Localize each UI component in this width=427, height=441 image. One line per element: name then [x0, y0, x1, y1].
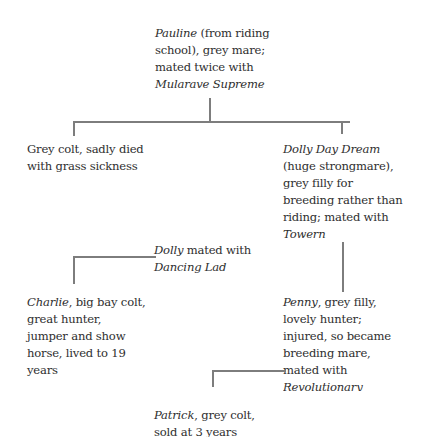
horse-name: Penny — [283, 295, 318, 309]
horse-name: Charlie — [27, 295, 69, 309]
connector-line — [73, 256, 156, 258]
node-text: mated with — [183, 243, 251, 257]
node-pauline: Pauline (from riding school), grey mare;… — [155, 25, 269, 93]
connector-line — [73, 121, 350, 123]
node-text: with grass sickness — [27, 158, 144, 175]
node-text: great hunter, — [27, 311, 145, 328]
node-text: mated with — [283, 362, 391, 379]
node-dolly-day-dream: Dolly Day Dream (huge strongmare), grey … — [283, 141, 403, 243]
node-text: sold at 3 years — [154, 424, 255, 437]
connector-line — [73, 256, 75, 284]
node-patrick: Patrick, grey colt, sold at 3 years — [154, 407, 255, 437]
node-text: mated twice with — [155, 59, 269, 76]
node-charlie: Charlie, big bay colt, great hunter, jum… — [27, 294, 145, 379]
connector-line — [212, 370, 214, 387]
connector-line — [342, 242, 344, 292]
connector-line — [209, 98, 211, 122]
node-text: (huge strongmare), — [283, 158, 403, 175]
horse-name: Dolly Day Dream — [283, 142, 380, 156]
node-grey-colt: Grey colt, sadly died with grass sicknes… — [27, 141, 144, 175]
node-text: jumper and show — [27, 328, 145, 345]
sire-name: Revolutionary — [283, 380, 363, 391]
horse-name: Dolly — [154, 243, 183, 257]
sire-name: Dancing Lad — [154, 260, 226, 274]
horse-name: Pauline — [155, 26, 197, 40]
connector-line — [212, 370, 286, 372]
connector-line — [73, 121, 75, 136]
node-text: years — [27, 362, 145, 379]
node-penny: Penny, grey filly, lovely hunter; injure… — [283, 294, 391, 391]
node-text: riding; mated with — [283, 209, 403, 226]
node-text: grey filly for — [283, 175, 403, 192]
sire-name: Towern — [283, 227, 325, 241]
node-dolly-mating: Dolly mated with Dancing Lad — [154, 242, 251, 276]
node-text: , grey filly, — [318, 295, 377, 309]
node-text: breeding mare, — [283, 345, 391, 362]
connector-line — [341, 122, 343, 134]
node-text: breeding rather than — [283, 192, 403, 209]
node-text: , grey colt, — [194, 408, 255, 422]
node-text: , big bay colt, — [69, 295, 146, 309]
node-text: Grey colt, sadly died — [27, 141, 144, 158]
node-text: lovely hunter; — [283, 311, 391, 328]
node-text: school), grey mare; — [155, 42, 269, 59]
sire-name: Mularave Supreme — [155, 77, 264, 91]
node-text: (from riding — [197, 26, 269, 40]
node-text: horse, lived to 19 — [27, 345, 145, 362]
horse-name: Patrick — [154, 408, 194, 422]
node-text: injured, so became — [283, 328, 391, 345]
